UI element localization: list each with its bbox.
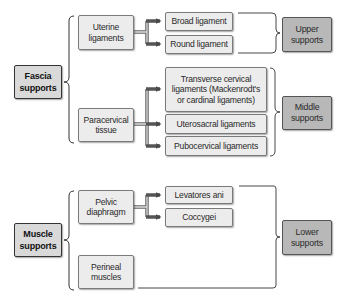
paracervical-tissue-node: Paracervical tissue — [78, 108, 134, 142]
middle-supports-label: Middle supports — [285, 102, 329, 124]
uterine-arrows — [134, 21, 160, 44]
pelvic-arrows — [134, 195, 160, 217]
levatores-ani-node: Levatores ani — [165, 186, 233, 204]
lower-supports-node: Lower supports — [282, 220, 332, 255]
uterosacral-ligaments-node: Uterosacral ligaments — [165, 114, 267, 134]
pelvic-diaphragm-label: Pelvic diaphragm — [81, 197, 131, 218]
levatores-ani-label: Levatores ani — [175, 190, 224, 201]
paracervical-tissue-label: Paracervical tissue — [81, 115, 131, 136]
fascia-supports-label: Fascia supports — [17, 70, 59, 94]
paracervical-arrows — [134, 89, 160, 146]
uterosacral-ligaments-label: Uterosacral ligaments — [177, 119, 256, 130]
upper-supports-node: Upper supports — [282, 17, 332, 52]
pubocervical-ligaments-node: Pubocervical ligaments — [165, 136, 267, 156]
transverse-cervical-ligaments-node: Transverse cervical ligaments (Mackenrod… — [165, 67, 267, 112]
lower-supports-label: Lower supports — [285, 227, 329, 249]
fascia-brace — [64, 16, 74, 143]
muscle-brace — [64, 191, 74, 290]
coccygei-node: Coccygei — [165, 208, 233, 227]
muscle-supports-label: Muscle supports — [17, 228, 59, 252]
round-ligament-label: Round ligament — [170, 39, 227, 50]
upper-supports-label: Upper supports — [285, 24, 329, 46]
middle-bracket — [270, 68, 280, 156]
pubocervical-ligaments-label: Pubocervical ligaments — [174, 141, 258, 152]
uterine-ligaments-node: Uterine ligaments — [78, 15, 134, 50]
middle-supports-node: Middle supports — [282, 96, 332, 130]
muscle-supports-node: Muscle supports — [14, 223, 62, 257]
coccygei-label: Coccygei — [182, 212, 216, 223]
perineal-muscles-label: Perineal muscles — [81, 262, 131, 283]
fascia-supports-node: Fascia supports — [14, 65, 62, 99]
uterine-ligaments-label: Uterine ligaments — [81, 22, 131, 43]
perineal-muscles-node: Perineal muscles — [78, 255, 134, 289]
round-ligament-node: Round ligament — [165, 35, 233, 54]
broad-ligament-node: Broad ligament — [165, 12, 233, 31]
upper-bracket — [238, 13, 280, 53]
pelvic-diaphragm-node: Pelvic diaphragm — [78, 190, 134, 224]
transverse-cervical-ligaments-label: Transverse cervical ligaments (Mackenrod… — [168, 74, 264, 106]
broad-ligament-label: Broad ligament — [171, 16, 226, 27]
